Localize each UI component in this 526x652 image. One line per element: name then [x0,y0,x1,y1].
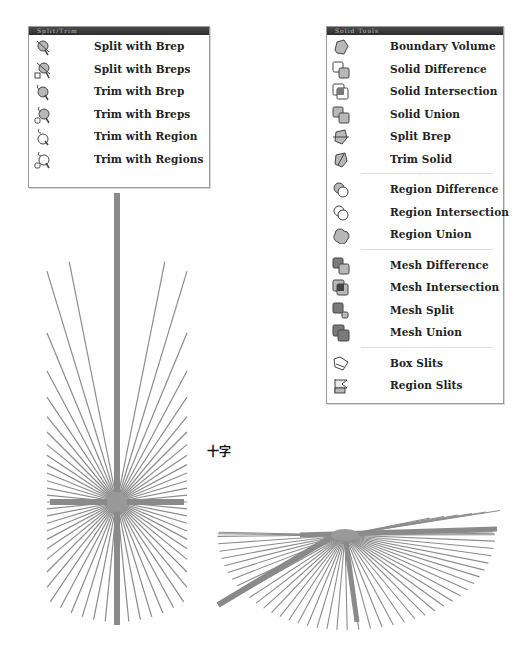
toolbar-item-mesh-difference[interactable]: Mesh Difference [327,254,503,277]
toolbar-item-label: Split Brep [390,130,451,142]
cross-perspective-view [218,511,501,631]
toolbar-item-label: Solid Intersection [390,85,497,97]
split-brep-icon [34,38,52,56]
toolbar-item-label: Region Union [390,228,472,240]
mesh-difference-icon [332,257,350,275]
solid-tools-toolbar: Solid Tools Boundary VolumeSolid Differe… [326,26,504,404]
toolbar-separator [327,344,503,352]
toolbar-item-solid-difference[interactable]: Solid Difference [327,58,503,81]
toolbar-item-label: Trim with Region [94,130,197,142]
cross-front-view [47,193,187,625]
toolbar-item-trim-with-brep[interactable]: Trim with Brep [29,80,209,103]
toolbar-item-label: Mesh Union [390,326,462,338]
region-slits-icon [332,377,350,395]
toolbar-item-label: Boundary Volume [390,40,496,52]
toolbar-item-solid-union[interactable]: Solid Union [327,103,503,126]
region-difference-icon [332,181,350,199]
toolbar-item-boundary-volume[interactable]: Boundary Volume [327,35,503,58]
trim-brep-icon [34,83,52,101]
toolbar-item-split-with-brep[interactable]: Split with Brep [29,35,209,58]
trim-breps-icon [34,106,52,124]
toolbar-titlebar[interactable]: Solid Tools [327,27,503,35]
trim-regions-icon [34,151,52,169]
boundary-volume-icon [332,38,350,56]
toolbar-item-mesh-split[interactable]: Mesh Split [327,299,503,322]
toolbar-item-label: Solid Union [390,108,460,120]
toolbar-item-label: Trim with Brep [94,85,184,97]
toolbar-item-region-intersection[interactable]: Region Intersection [327,201,503,224]
toolbar-separator [327,246,503,254]
toolbar-item-label: Trim with Breps [94,108,190,120]
toolbar-item-label: Trim Solid [390,153,452,165]
solid-difference-icon [332,61,350,79]
cross-caption: 十字 [207,442,231,459]
mesh-split-icon [332,302,350,320]
toolbar-titlebar[interactable]: Split/Trim [29,27,209,35]
toolbar-item-label: Region Slits [390,379,463,391]
toolbar-item-trim-with-region[interactable]: Trim with Region [29,125,209,148]
split-breps-icon [34,61,52,79]
split-brep-icon [332,128,350,146]
toolbar-item-box-slits[interactable]: Box Slits [327,352,503,375]
toolbar-item-label: Region Intersection [390,206,509,218]
box-slits-icon [332,355,350,373]
toolbar-item-label: Mesh Intersection [390,281,499,293]
toolbar-item-label: Mesh Split [390,304,454,316]
toolbar-item-region-union[interactable]: Region Union [327,223,503,246]
toolbar-item-region-difference[interactable]: Region Difference [327,178,503,201]
mesh-intersection-icon [332,279,350,297]
toolbar-item-split-with-breps[interactable]: Split with Breps [29,58,209,81]
region-intersection-icon [332,204,350,222]
toolbar-item-label: Split with Brep [94,40,185,52]
toolbar-item-split-brep[interactable]: Split Brep [327,125,503,148]
toolbar-item-mesh-intersection[interactable]: Mesh Intersection [327,276,503,299]
toolbar-item-mesh-union[interactable]: Mesh Union [327,321,503,344]
trim-region-icon [34,128,52,146]
toolbar-item-label: Solid Difference [390,63,487,75]
solid-intersection-icon [332,83,350,101]
split-trim-toolbar: Split/Trim Split with BrepSplit with Bre… [28,26,210,188]
solid-union-icon [332,106,350,124]
toolbar-item-trim-with-breps[interactable]: Trim with Breps [29,103,209,126]
toolbar-item-trim-with-regions[interactable]: Trim with Regions [29,148,209,171]
trim-solid-icon [332,151,350,169]
mesh-union-icon [332,324,350,342]
toolbar-item-label: Region Difference [390,183,498,195]
toolbar-item-label: Mesh Difference [390,259,489,271]
toolbar-item-label: Box Slits [390,357,443,369]
toolbar-item-solid-intersection[interactable]: Solid Intersection [327,80,503,103]
toolbar-item-region-slits[interactable]: Region Slits [327,374,503,397]
toolbar-item-trim-solid[interactable]: Trim Solid [327,148,503,171]
toolbar-item-label: Trim with Regions [94,153,204,165]
toolbar-item-label: Split with Breps [94,63,191,75]
toolbar-separator [327,170,503,178]
region-union-icon [332,226,350,244]
